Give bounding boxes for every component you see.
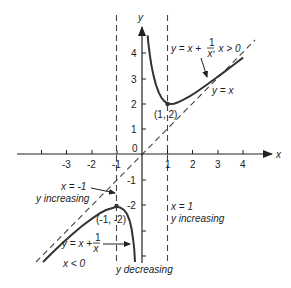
x-axis-label: x	[275, 149, 282, 160]
bottom-note: y decreasing	[115, 264, 173, 275]
x-tick-label: -3	[62, 159, 71, 170]
y-tick-label: 1	[131, 124, 137, 135]
min-point-label: (1, 2)	[154, 109, 177, 120]
right-branch-label: y = x + 1 x , x > 0	[170, 37, 241, 59]
origin-label: 0	[132, 143, 138, 154]
left-branch-label: y = x + 1 x	[61, 232, 101, 254]
max-point	[114, 204, 118, 208]
svg-text:y = x +: y = x +	[170, 43, 201, 54]
x-tick-label: 1	[165, 159, 171, 170]
x-tick-label: 3	[215, 159, 221, 170]
y-tick-label: -1	[127, 175, 136, 186]
svg-text:x: x	[93, 243, 100, 254]
asymptote-label: y = x	[211, 85, 234, 96]
svg-text:y = x +: y = x +	[61, 238, 92, 249]
x-pos1-label: x = 1	[170, 201, 193, 212]
x-tick-label: -2	[87, 159, 96, 170]
x-tick-label: 2	[190, 159, 196, 170]
y-tick-label: 4	[131, 48, 137, 59]
function-graph: -3 -2 -1 1 2 3 4 4 3 2 1 -1 -2 0 x y y =…	[0, 0, 291, 288]
min-point	[165, 102, 169, 106]
x-neg1-label: x = -1	[60, 181, 86, 192]
x-pos1-note: y increasing	[170, 213, 225, 224]
x-tick-label: -1	[112, 159, 121, 170]
pointer-arrow-x-neg1	[91, 188, 115, 193]
svg-text:, x > 0: , x > 0	[213, 43, 241, 54]
left-condition-label: x < 0	[62, 258, 85, 269]
y-tick-label: 3	[131, 74, 137, 85]
pointer-arrow-right	[201, 58, 207, 77]
y-tick-label: 2	[131, 99, 137, 110]
x-tick-label: 4	[240, 159, 246, 170]
y-tick-label: -2	[127, 200, 136, 211]
y-axis-label: y	[137, 12, 144, 23]
max-point-label: (-1, -2)	[96, 214, 126, 225]
x-neg1-note: y increasing	[35, 193, 90, 204]
svg-text:1: 1	[95, 232, 101, 243]
